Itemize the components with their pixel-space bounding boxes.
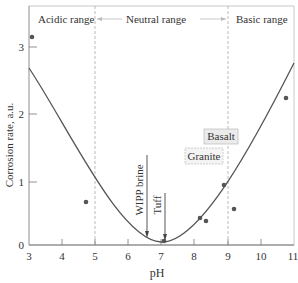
right-arrow-icon [221,17,226,21]
svg-text:8: 8 [191,250,197,262]
basalt-label: Basalt [207,130,235,142]
svg-text:1: 1 [19,176,25,188]
granite-label: Granite [188,150,221,162]
data-point [222,183,227,188]
corrosion-chart: Acidic range Neutral range Basic range 0… [0,0,298,283]
y-ticks [29,47,37,182]
acidic-range-label: Acidic range [38,13,95,25]
data-point [162,239,167,244]
y-axis-label: Corrosion rate, a.u. [3,102,15,187]
y-tick-labels: 0 1 2 3 [19,41,25,251]
data-point [204,219,209,224]
svg-text:9: 9 [225,250,231,262]
svg-text:7: 7 [158,250,164,262]
wipp-brine-label: WIPP brine [133,164,145,215]
svg-text:4: 4 [59,250,65,262]
svg-text:6: 6 [125,250,131,262]
svg-text:10: 10 [256,250,268,262]
svg-text:3: 3 [19,41,25,53]
svg-text:5: 5 [92,250,98,262]
basic-range-label: Basic range [236,13,288,25]
data-point [84,200,89,205]
data-point [30,35,35,40]
x-axis-label: pH [150,266,165,280]
data-point [232,207,237,212]
svg-text:3: 3 [26,250,32,262]
svg-text:2: 2 [19,108,25,120]
data-point [198,216,203,221]
tuff-label: Tuff [151,195,163,214]
neutral-range-label: Neutral range [126,13,186,25]
x-tick-labels: 3 4 5 6 7 8 9 10 11 [26,250,298,262]
svg-text:11: 11 [288,250,298,262]
svg-text:0: 0 [19,239,25,251]
left-arrow-icon [97,17,102,21]
data-point [284,96,289,101]
